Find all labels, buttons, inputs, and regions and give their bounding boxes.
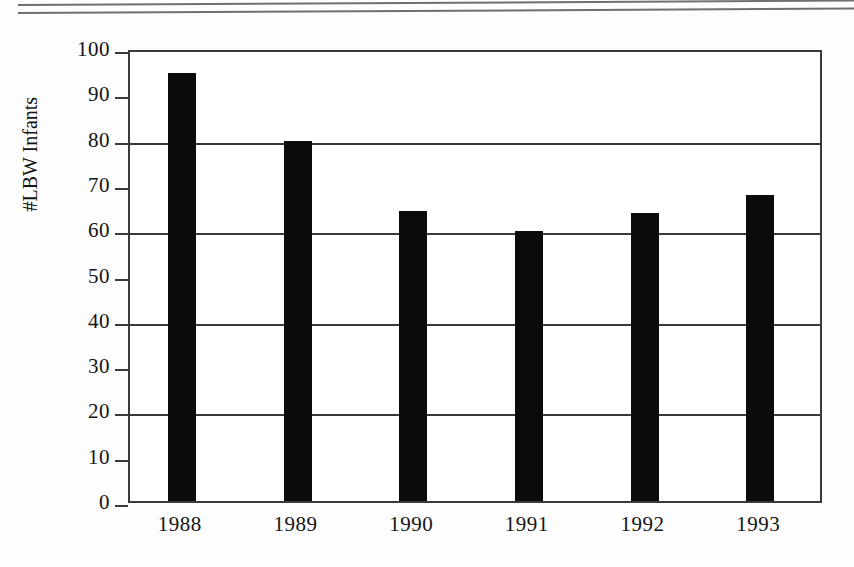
y-axis-title-text: #LBW Infants bbox=[19, 97, 42, 212]
y-tick-100 bbox=[115, 52, 128, 54]
y-tick-90 bbox=[115, 97, 128, 99]
bar-1989 bbox=[284, 141, 312, 501]
page-canvas: #LBW Infants 0102030405060708090100 1988… bbox=[0, 0, 854, 567]
y-tick-label: 100 bbox=[50, 39, 110, 60]
y-tick-10 bbox=[115, 460, 128, 462]
y-tick-label: 50 bbox=[50, 266, 110, 287]
bar-series bbox=[130, 52, 820, 501]
y-tick-50 bbox=[115, 279, 128, 281]
y-tick-label: 70 bbox=[50, 175, 110, 196]
y-tick-label: 10 bbox=[50, 447, 110, 468]
bar-1988 bbox=[168, 73, 196, 501]
plot-area bbox=[128, 50, 822, 503]
y-tick-30 bbox=[115, 369, 128, 371]
x-tick-label-1988: 1988 bbox=[135, 512, 225, 536]
y-tick-label: 30 bbox=[50, 356, 110, 377]
y-tick-80 bbox=[115, 143, 128, 145]
y-tick-label: 40 bbox=[50, 311, 110, 332]
y-tick-20 bbox=[115, 414, 128, 416]
y-tick-label: 20 bbox=[50, 401, 110, 422]
bar-1993 bbox=[746, 195, 774, 501]
y-tick-70 bbox=[115, 188, 128, 190]
bar-chart: #LBW Infants 0102030405060708090100 1988… bbox=[0, 0, 854, 567]
y-tick-label: 0 bbox=[50, 492, 110, 513]
y-tick-label: 60 bbox=[50, 220, 110, 241]
y-tick-0 bbox=[115, 505, 128, 507]
x-tick-label-1991: 1991 bbox=[482, 512, 572, 536]
y-tick-label: 80 bbox=[50, 130, 110, 151]
y-tick-40 bbox=[115, 324, 128, 326]
bar-1990 bbox=[399, 211, 427, 501]
x-tick-label-1992: 1992 bbox=[598, 512, 688, 536]
x-tick-label-1990: 1990 bbox=[366, 512, 456, 536]
bar-1992 bbox=[631, 213, 659, 501]
y-tick-60 bbox=[115, 233, 128, 235]
x-tick-label-1993: 1993 bbox=[713, 512, 803, 536]
x-tick-label-1989: 1989 bbox=[251, 512, 341, 536]
y-tick-label: 90 bbox=[50, 84, 110, 105]
bar-1991 bbox=[515, 231, 543, 501]
y-axis-title: #LBW Infants bbox=[19, 172, 42, 212]
